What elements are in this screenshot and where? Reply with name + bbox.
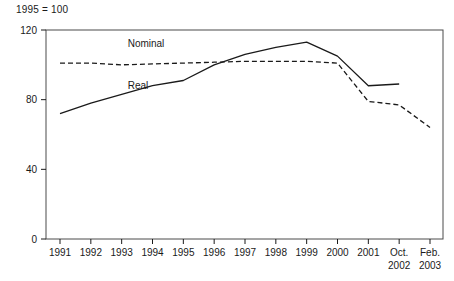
series-line-nominal [60,61,430,127]
chart-container: 1995 = 100 04080120 19911992199319941995… [0,0,454,281]
x-tick-label: 1999 [296,247,319,258]
line-chart: 04080120 1991199219931994199519961997199… [0,0,454,281]
x-axis: 1991199219931994199519961997199819992000… [49,239,442,271]
series-label-real: Real [128,80,149,91]
x-tick-label: 1993 [111,247,134,258]
x-tick-label-line2: 2003 [419,260,442,271]
x-tick-label: 1991 [49,247,72,258]
x-tick-label: 1997 [234,247,257,258]
y-tick-label: 0 [31,234,37,245]
y-tick-label: 80 [26,94,38,105]
y-axis: 04080120 [20,25,46,245]
x-tick-label: 1992 [80,247,103,258]
x-tick-label: Feb. [420,247,440,258]
series-lines [60,42,430,127]
series-line-real [60,42,399,113]
y-tick-label: 120 [20,25,37,36]
x-tick-label: 1994 [141,247,164,258]
x-tick-label: Oct. [390,247,408,258]
x-tick-label: 2001 [357,247,380,258]
x-tick-label: 1995 [172,247,195,258]
x-tick-label-line2: 2002 [388,260,411,271]
x-tick-label: 1996 [203,247,226,258]
x-tick-label: 1998 [265,247,288,258]
y-tick-label: 40 [26,164,38,175]
x-tick-label: 2000 [326,247,349,258]
series-label-nominal: Nominal [128,38,165,49]
